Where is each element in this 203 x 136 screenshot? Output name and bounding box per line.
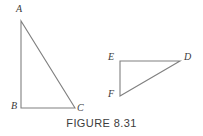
figure-caption: FIGURE 8.31 [0,117,203,129]
vertex-label-f: F [108,89,114,99]
geometry-canvas [0,0,203,136]
triangle-abc-shape [21,21,75,108]
vertex-label-c: C [77,103,84,113]
vertex-label-a: A [16,4,22,14]
geometry-figure: A B C E D F FIGURE 8.31 [0,0,203,136]
triangle-def-shape [120,61,180,96]
vertex-label-b: B [11,101,17,111]
vertex-label-d: D [184,52,191,62]
vertex-label-e: E [108,52,114,62]
